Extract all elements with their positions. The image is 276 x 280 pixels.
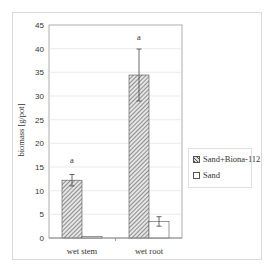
- y-tick: 35: [35, 68, 44, 77]
- bar-wet-stem-sand-biona: [62, 180, 82, 238]
- legend: Sand+Biona-112 Sand: [188, 148, 252, 188]
- legend-label: Sand+Biona-112: [203, 154, 260, 164]
- y-tick: 25: [35, 116, 44, 125]
- bar-chart: 0 5 10 15 20 25 30 35 40 45 biomass [g/p…: [0, 0, 276, 280]
- legend-item-sand: Sand: [193, 170, 220, 180]
- y-tick: 30: [35, 92, 44, 101]
- y-tick: 45: [35, 21, 44, 30]
- x-category-label: wet root: [135, 246, 164, 256]
- y-tick: 20: [35, 139, 44, 148]
- y-tick: 40: [35, 45, 44, 54]
- y-tick: 0: [40, 234, 45, 243]
- significance-letter: a: [137, 32, 141, 42]
- y-axis-ticks: 0 5 10 15 20 25 30 35 40 45: [35, 21, 44, 243]
- legend-item-sand-biona: Sand+Biona-112: [193, 154, 260, 164]
- x-category-label: wet stem: [67, 246, 98, 256]
- white-swatch-icon: [193, 172, 200, 179]
- significance-letter: a: [70, 155, 74, 165]
- y-tick: 5: [40, 210, 45, 219]
- y-tick: 10: [35, 187, 44, 196]
- y-tick: 15: [35, 163, 44, 172]
- y-axis-label: biomass [g/pot]: [16, 103, 26, 156]
- legend-label: Sand: [203, 170, 220, 180]
- hatched-swatch-icon: [193, 156, 200, 163]
